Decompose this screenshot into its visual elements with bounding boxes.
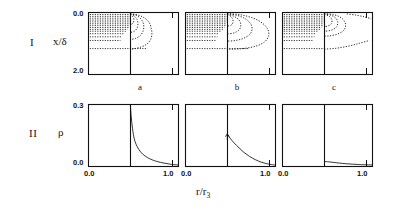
panel-II-a <box>89 104 179 167</box>
series-lower-right-wisp <box>324 41 369 50</box>
peak-marker-arrow <box>226 134 230 140</box>
series-inner-contour-1 <box>227 14 252 41</box>
panel-I-c <box>283 12 373 75</box>
panel-I-a <box>89 12 179 75</box>
panel-frame <box>283 105 373 167</box>
series-inner-contour-1 <box>324 14 338 31</box>
series-recirculation-contour <box>227 14 269 50</box>
series-inner-contour-1 <box>130 14 144 40</box>
series-inner-contour-3 <box>227 14 233 26</box>
panel-frame <box>186 105 276 167</box>
series-density-profile <box>227 134 275 165</box>
series-inner-contour-2 <box>130 14 138 33</box>
plot-layer <box>0 0 403 209</box>
series-inner-contour-2 <box>324 14 332 26</box>
series-density-profile <box>130 104 178 165</box>
panel-II-b <box>186 104 276 167</box>
series-upper-right-wisp <box>347 14 371 19</box>
series-density-profile <box>324 161 372 165</box>
panel-II-c <box>283 104 373 167</box>
series-inner-contour-2 <box>227 14 241 34</box>
panel-I-b <box>186 12 276 75</box>
figure-canvas: I x/δ 0.0 2.0 II ρ 0.3 0.0 a b c 0.0 1.0… <box>0 0 403 209</box>
